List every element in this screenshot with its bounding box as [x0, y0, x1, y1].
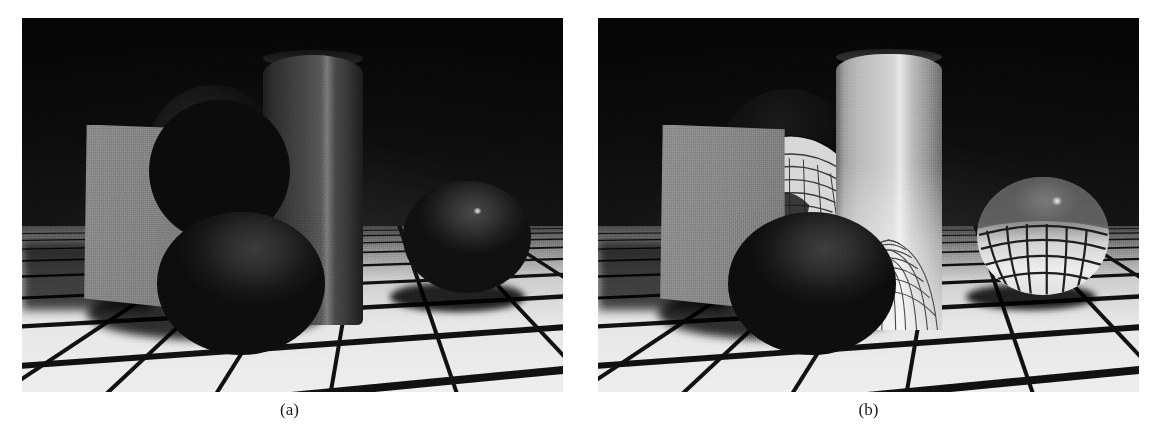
- specular-highlight-b: [1051, 197, 1063, 205]
- figure-root: (a): [0, 0, 1158, 442]
- specular-highlight-a: [473, 208, 482, 215]
- right-sphere-a: [403, 181, 530, 293]
- figure-panel-b: (b): [579, 0, 1158, 442]
- panel-caption-a: (a): [0, 399, 579, 421]
- sphere-refraction-grid-b: [977, 177, 1110, 295]
- scene-a: [22, 18, 563, 392]
- scene-b: [598, 18, 1139, 392]
- render-image-b: [598, 18, 1139, 392]
- render-image-a: [22, 18, 563, 392]
- front-sphere-b: [728, 212, 896, 354]
- glass-sphere-b: [977, 177, 1110, 295]
- front-sphere-a: [157, 212, 325, 354]
- figure-panel-a: (a): [0, 0, 579, 442]
- panel-caption-b: (b): [579, 399, 1158, 421]
